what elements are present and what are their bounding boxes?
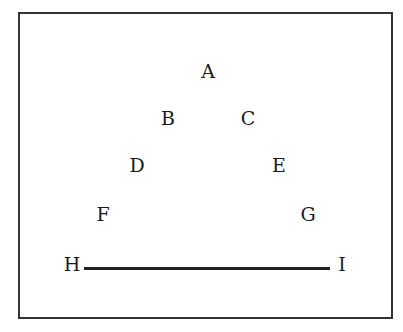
- node-label-h: H: [64, 255, 81, 274]
- node-label-e: E: [272, 156, 286, 175]
- node-label-g: G: [300, 205, 315, 224]
- node-label-f: F: [96, 205, 109, 224]
- node-label-b: B: [161, 109, 175, 128]
- node-label-i: I: [338, 255, 346, 274]
- node-label-a: A: [201, 62, 215, 81]
- node-label-c: C: [241, 109, 256, 128]
- node-label-d: D: [129, 156, 144, 175]
- h-to-i-line: [84, 267, 330, 270]
